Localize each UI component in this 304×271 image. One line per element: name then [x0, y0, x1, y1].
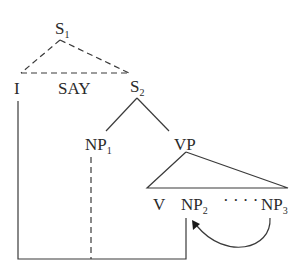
node-vp: VP: [174, 135, 196, 154]
edge-s2-np1: [106, 98, 137, 131]
node-say: SAY: [58, 79, 90, 98]
node-i: I: [14, 79, 20, 98]
node-np1: NP1: [85, 135, 112, 156]
node-s1: S1: [55, 19, 69, 40]
movement-arrow: [197, 218, 270, 247]
edge-s2-vp: [137, 98, 169, 131]
syntax-tree-diagram: S1 I SAY S2 NP1 VP V NP2 · · · · NP3: [0, 0, 304, 271]
node-v: V: [153, 195, 166, 214]
connector-i-np2: [18, 101, 186, 259]
vp-triangle: [147, 152, 288, 188]
node-s2: S2: [130, 77, 144, 98]
ellipsis: · · · ·: [223, 191, 258, 210]
edge-s1-i: [21, 40, 60, 73]
node-np2: NP2: [181, 195, 208, 216]
edge-s1-s2: [60, 40, 129, 73]
node-np3: NP3: [261, 195, 288, 216]
